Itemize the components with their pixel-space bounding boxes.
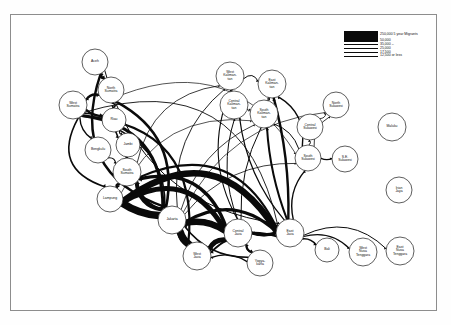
province-node-enusa[interactable] bbox=[386, 237, 414, 265]
province-node-maluku[interactable] bbox=[378, 113, 406, 141]
province-node-ejava[interactable] bbox=[276, 219, 304, 247]
legend-swatch bbox=[344, 48, 378, 49]
legend-label: 12,500 or less bbox=[380, 54, 402, 58]
flow-arrowhead bbox=[250, 121, 252, 123]
province-node-wnusa[interactable] bbox=[349, 238, 377, 266]
province-node-ckali[interactable] bbox=[220, 91, 248, 119]
legend-swatch bbox=[344, 44, 378, 46]
province-node-sesulawesi[interactable] bbox=[332, 146, 358, 172]
province-node-irian[interactable] bbox=[386, 177, 412, 203]
province-node-wkali[interactable] bbox=[216, 62, 244, 90]
province-node-riau[interactable] bbox=[102, 108, 126, 132]
flow-edge bbox=[274, 124, 299, 149]
province-node-skali[interactable] bbox=[250, 100, 278, 128]
legend-swatch bbox=[344, 31, 378, 39]
nodes-layer bbox=[59, 49, 414, 276]
province-node-bengkulu[interactable] bbox=[85, 137, 111, 163]
legend: 250,000 5 year Migrants 50,000 35,000 – … bbox=[344, 31, 436, 58]
province-node-ekali[interactable] bbox=[258, 70, 286, 98]
flow-edge bbox=[227, 119, 238, 219]
province-node-jambi[interactable] bbox=[116, 133, 140, 157]
legend-swatch bbox=[344, 39, 378, 41]
flow-edge bbox=[80, 117, 92, 138]
province-node-nsulawesi[interactable] bbox=[323, 92, 349, 118]
province-node-csulawesi[interactable] bbox=[297, 114, 323, 140]
province-node-wsumatra[interactable] bbox=[59, 91, 87, 119]
province-node-cjava[interactable] bbox=[224, 219, 252, 247]
flow-arrowhead bbox=[96, 94, 99, 97]
legend-swatch bbox=[344, 52, 378, 53]
province-node-aceh[interactable] bbox=[82, 49, 108, 75]
province-node-yogya[interactable] bbox=[247, 250, 273, 276]
legend-label: 250,000 5 year Migrants bbox=[380, 33, 418, 37]
flow-edge bbox=[292, 171, 305, 220]
flow-edge bbox=[240, 118, 285, 220]
flow-edge bbox=[244, 75, 258, 81]
province-node-bali[interactable] bbox=[315, 238, 339, 262]
province-node-nsumatra[interactable] bbox=[98, 77, 124, 103]
province-node-ssumatra[interactable] bbox=[113, 158, 141, 186]
province-node-wjava[interactable] bbox=[183, 242, 211, 270]
figure-page: AcehNorth SumatraWest SumatraRiauJambiBe… bbox=[0, 0, 451, 325]
province-node-lampung[interactable] bbox=[97, 186, 123, 212]
province-node-ssulawesi[interactable] bbox=[295, 145, 321, 171]
legend-row: 12,500 or less bbox=[344, 54, 436, 58]
province-node-jakarta[interactable] bbox=[158, 206, 186, 234]
